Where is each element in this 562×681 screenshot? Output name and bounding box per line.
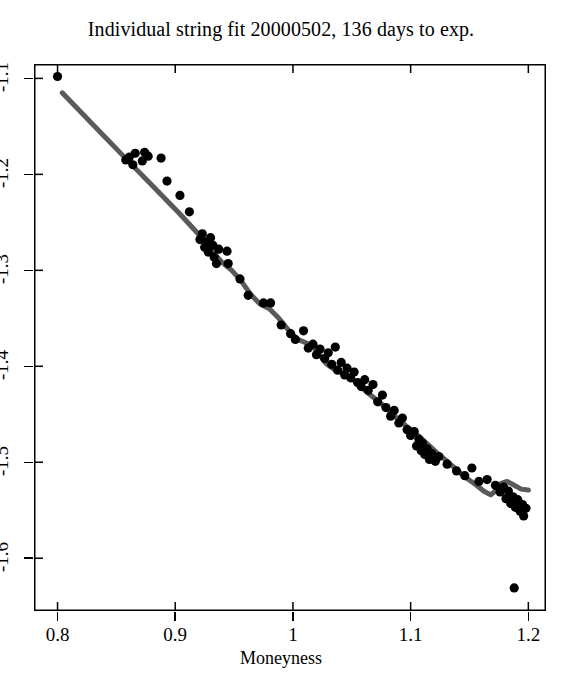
data-point <box>175 191 184 200</box>
data-point <box>410 427 419 436</box>
x-tick-label: 1 <box>263 624 323 646</box>
x-tick-stub <box>410 612 412 621</box>
data-point <box>452 466 461 475</box>
x-tick-label: 0.8 <box>28 624 88 646</box>
figure-container: Individual string fit 20000502, 136 days… <box>0 0 562 681</box>
y-tick-label: -1.4 <box>0 335 13 395</box>
y-tick-stub <box>24 366 33 368</box>
x-axis-label: Moneyness <box>0 648 562 669</box>
data-point <box>378 390 387 399</box>
y-tick-stub <box>24 462 33 464</box>
data-point <box>483 475 492 484</box>
y-tick-label: -1.3 <box>0 239 13 299</box>
x-tick-label: 1.2 <box>498 624 558 646</box>
y-tick-stub <box>24 78 33 80</box>
data-point <box>434 452 443 461</box>
data-point <box>157 153 166 162</box>
data-point <box>360 375 369 384</box>
data-point <box>198 229 207 238</box>
x-tick-label: 0.9 <box>145 624 205 646</box>
data-point <box>398 414 407 423</box>
data-point <box>53 72 62 81</box>
data-point <box>467 463 476 472</box>
y-tick-label: -1.5 <box>0 431 13 491</box>
data-point <box>277 320 286 329</box>
data-point <box>381 403 390 412</box>
x-tick-stub <box>528 612 530 621</box>
data-point <box>222 247 231 256</box>
data-point <box>214 245 223 254</box>
data-point <box>510 583 519 592</box>
data-point <box>331 343 340 352</box>
x-tick-stub <box>57 612 59 621</box>
y-tick-stub <box>24 270 33 272</box>
plot-area <box>34 64 546 611</box>
data-point <box>460 471 469 480</box>
data-point <box>443 460 452 469</box>
data-point <box>224 259 233 268</box>
y-tick-stub <box>24 557 33 559</box>
axis-ticks <box>34 64 528 611</box>
data-point <box>266 298 275 307</box>
data-point <box>368 380 377 389</box>
data-point <box>162 176 171 185</box>
y-tick-stub <box>24 174 33 176</box>
data-point <box>291 335 300 344</box>
data-point <box>185 207 194 216</box>
data-point <box>299 326 308 335</box>
y-tick-label: -1.1 <box>0 47 13 107</box>
data-point <box>521 504 530 513</box>
y-tick-label: -1.6 <box>0 527 13 587</box>
x-tick-stub <box>174 612 176 621</box>
x-tick-stub <box>292 612 294 621</box>
data-point <box>315 344 324 353</box>
data-point <box>244 291 253 300</box>
x-tick-label: 1.1 <box>381 624 441 646</box>
data-point <box>144 152 153 161</box>
data-point <box>128 160 137 169</box>
data-points <box>53 72 531 593</box>
data-point <box>235 274 244 283</box>
scatter-plot-svg <box>34 64 546 611</box>
data-point <box>212 259 221 268</box>
data-point <box>474 477 483 486</box>
y-tick-label: -1.2 <box>0 143 13 203</box>
data-point <box>390 406 399 415</box>
data-point <box>350 367 359 376</box>
data-point <box>131 149 140 158</box>
chart-title: Individual string fit 20000502, 136 days… <box>0 18 562 41</box>
